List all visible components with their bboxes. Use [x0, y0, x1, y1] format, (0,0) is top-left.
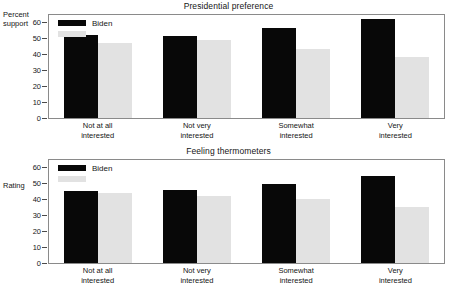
y-tick: 10 — [0, 243, 48, 252]
bar — [197, 196, 231, 263]
y-tick-label: 40 — [33, 50, 41, 59]
y-tick: 30 — [0, 66, 48, 75]
bar-group — [262, 14, 330, 118]
y-tick-label: 50 — [33, 179, 41, 188]
y-tick: 60 — [0, 18, 48, 27]
x-axis-labels: Not at all interestedNot very interested… — [48, 266, 445, 288]
bar — [361, 19, 395, 118]
y-tick: 40 — [0, 195, 48, 204]
x-tick-label: Not very interested — [152, 121, 242, 141]
bar-group — [163, 159, 231, 263]
y-tick-label: 10 — [33, 98, 41, 107]
y-tick-label: 40 — [33, 195, 41, 204]
y-axis-ticks: 0102030405060 — [0, 0, 48, 119]
chart-page: Presidential preference Percent support … — [0, 0, 457, 289]
legend-swatch — [58, 20, 86, 26]
y-tick-label: 0 — [37, 259, 41, 268]
bar — [197, 40, 231, 118]
bar — [163, 36, 197, 118]
panel-title: Presidential preference — [0, 1, 457, 12]
legend-item — [58, 174, 168, 185]
legend-item: Biden — [58, 18, 168, 29]
x-tick-label: Somewhat interested — [251, 266, 341, 286]
legend-swatch — [58, 176, 86, 182]
y-tick-mark — [42, 231, 47, 232]
bar — [296, 49, 330, 118]
y-tick-mark — [42, 183, 47, 184]
bar — [163, 190, 197, 263]
y-tick-mark — [42, 247, 47, 248]
bar — [98, 43, 132, 118]
legend-label: Biden — [92, 18, 112, 29]
y-tick: 40 — [0, 50, 48, 59]
bar — [395, 207, 429, 263]
y-tick-label: 20 — [33, 227, 41, 236]
bar-group — [361, 14, 429, 118]
y-tick-label: 30 — [33, 66, 41, 75]
bar — [98, 193, 132, 263]
legend: Biden — [58, 163, 168, 185]
y-tick-mark — [42, 86, 47, 87]
bar — [395, 57, 429, 118]
bar — [64, 191, 98, 263]
chart-panel-presidential-preference: Presidential preference Percent support … — [0, 0, 457, 144]
y-tick-mark — [42, 215, 47, 216]
legend: Biden — [58, 18, 168, 40]
bar-group — [163, 14, 231, 118]
panel-title: Feeling thermometers — [0, 146, 457, 157]
y-tick-mark — [42, 102, 47, 103]
x-tick-label: Not very interested — [152, 266, 242, 286]
y-tick: 20 — [0, 82, 48, 91]
legend-label: Biden — [92, 163, 112, 174]
bar — [262, 28, 296, 118]
legend-swatch — [58, 31, 86, 37]
y-tick: 20 — [0, 227, 48, 236]
legend-swatch — [58, 165, 86, 171]
y-tick-mark — [42, 54, 47, 55]
chart-panel-feeling-thermometers: Feeling thermometers Rating 010203040506… — [0, 145, 457, 289]
x-tick-label: Very interested — [350, 266, 440, 286]
legend-item — [58, 29, 168, 40]
bar — [64, 35, 98, 118]
y-tick-label: 0 — [37, 114, 41, 123]
bar-group — [361, 159, 429, 263]
y-axis-ticks: 0102030405060 — [0, 145, 48, 264]
y-tick-label: 30 — [33, 211, 41, 220]
bar — [361, 176, 395, 263]
y-tick: 10 — [0, 98, 48, 107]
x-axis-labels: Not at all interestedNot very interested… — [48, 121, 445, 143]
y-tick-mark — [42, 199, 47, 200]
x-tick-label: Not at all interested — [53, 266, 143, 286]
y-tick: 0 — [0, 114, 48, 123]
bar — [262, 184, 296, 263]
y-tick-mark — [42, 38, 47, 39]
y-tick-mark — [42, 22, 47, 23]
y-tick-label: 20 — [33, 82, 41, 91]
y-tick: 0 — [0, 259, 48, 268]
x-tick-label: Very interested — [350, 121, 440, 141]
y-tick-mark — [42, 118, 47, 119]
y-tick-mark — [42, 70, 47, 71]
y-tick: 50 — [0, 179, 48, 188]
y-tick-label: 60 — [33, 163, 41, 172]
x-tick-label: Somewhat interested — [251, 121, 341, 141]
y-tick-label: 50 — [33, 34, 41, 43]
legend-item: Biden — [58, 163, 168, 174]
y-tick: 50 — [0, 34, 48, 43]
y-tick-label: 10 — [33, 243, 41, 252]
y-tick-label: 60 — [33, 18, 41, 27]
bar — [296, 199, 330, 263]
bar-group — [262, 159, 330, 263]
y-tick: 60 — [0, 163, 48, 172]
x-tick-label: Not at all interested — [53, 121, 143, 141]
y-tick: 30 — [0, 211, 48, 220]
y-tick-mark — [42, 167, 47, 168]
y-tick-mark — [42, 263, 47, 264]
